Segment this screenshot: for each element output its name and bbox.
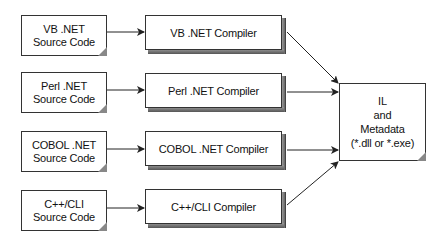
source-title: COBOL .NET <box>32 139 96 152</box>
arrow-cpp-compiler-to-il <box>287 162 338 205</box>
compiler-label: C++/CLI Compiler <box>145 189 282 224</box>
perl-source-code-document: Perl .NET Source Code <box>21 72 107 113</box>
source-subtitle: Source Code <box>33 211 95 224</box>
vb-source-code-document: VB .NET Source Code <box>21 15 107 56</box>
source-title: Perl .NET <box>41 80 87 93</box>
source-title: VB .NET <box>43 23 84 36</box>
cobol-source-code-document: COBOL .NET Source Code <box>21 131 107 172</box>
vb-compiler-box: VB .NET Compiler <box>145 15 285 55</box>
source-subtitle: Source Code <box>33 152 95 165</box>
source-subtitle: Source Code <box>33 93 95 106</box>
source-title: C++/CLI <box>44 198 84 211</box>
compiler-label: Perl .NET Compiler <box>145 73 282 108</box>
dotnet-compilation-diagram: VB .NET Source Code Perl .NET Source Cod… <box>0 0 444 242</box>
perl-compiler-box: Perl .NET Compiler <box>145 73 285 113</box>
page-fold-icon <box>98 163 107 172</box>
page-fold-icon <box>98 222 107 231</box>
arrow-vb-compiler-to-il <box>287 32 338 83</box>
source-subtitle: Source Code <box>33 36 95 49</box>
cobol-compiler-box: COBOL .NET Compiler <box>145 131 285 171</box>
output-line-and: and <box>374 108 392 122</box>
page-fold-icon <box>98 104 107 113</box>
output-line-extensions: (*.dll or *.exe) <box>351 136 414 150</box>
cpp-cli-source-code-document: C++/CLI Source Code <box>21 190 107 231</box>
compiler-label: VB .NET Compiler <box>145 15 282 50</box>
output-line-metadata: Metadata <box>360 122 404 136</box>
output-line-il: IL <box>378 94 387 108</box>
compiler-label: COBOL .NET Compiler <box>145 131 282 166</box>
page-fold-icon <box>98 47 107 56</box>
cpp-cli-compiler-box: C++/CLI Compiler <box>145 189 285 229</box>
page-fold-icon <box>417 152 426 161</box>
il-metadata-output-document: IL and Metadata (*.dll or *.exe) <box>339 83 426 161</box>
